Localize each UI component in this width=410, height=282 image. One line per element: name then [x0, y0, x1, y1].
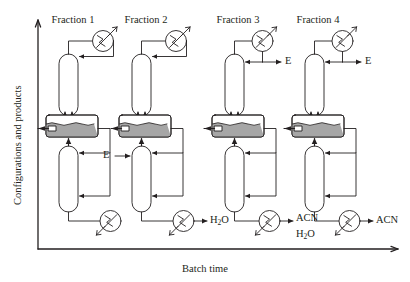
fraction-4-title: Fraction 4 — [287, 15, 349, 26]
axis-x — [38, 246, 398, 251]
fraction-1-vapour-line — [69, 41, 93, 54]
fraction-1-title: Fraction 1 — [42, 15, 104, 26]
fraction-4-flowsheet — [284, 27, 373, 235]
fraction-2-stripping-column — [132, 146, 151, 212]
fraction-2-rectifying-column — [132, 54, 151, 116]
fraction-3-bottom-product-label-2: H2O — [296, 229, 315, 240]
fraction-2-vapour-line — [142, 41, 166, 54]
figure-canvas: Fraction 1 Fraction 2 Fraction 3 Fractio… — [0, 0, 410, 282]
fraction-3-reboiler-return — [246, 153, 277, 196]
fraction-3-stripping-column — [225, 146, 244, 212]
fraction-3-bottom-product-label-1: ACN — [296, 213, 318, 224]
fraction-2-middle-vessel — [111, 115, 171, 137]
fraction-3-condenser — [252, 27, 277, 52]
fraction-1-reboiler-feed — [69, 212, 101, 221]
fraction-2-title: Fraction 2 — [115, 15, 177, 26]
h2o-o: O — [221, 214, 229, 225]
fraction-2-reboiler — [170, 211, 195, 236]
axis-y — [35, 20, 40, 249]
h2o-h: H — [210, 214, 218, 225]
y-axis-label: Configurations and products — [13, 65, 24, 225]
fraction-3-title: Fraction 3 — [207, 15, 269, 26]
h2o-h: H — [296, 228, 304, 239]
fraction-4-condenser — [332, 27, 357, 52]
fraction-3-flowsheet — [204, 27, 293, 235]
fraction-4-top-product-label: E — [365, 56, 371, 67]
fraction-3-reboiler — [256, 211, 281, 236]
fraction-4-stripping-column — [305, 146, 324, 212]
h2o-o: O — [307, 228, 315, 239]
fraction-3-middle-vessel — [204, 115, 264, 137]
fraction-3-rectifying-column — [225, 54, 244, 116]
fraction-4-middle-vessel — [284, 115, 344, 137]
fraction-1-reboiler — [97, 211, 122, 236]
fraction-1-rectifying-column — [59, 54, 78, 116]
fraction-4-reboiler-return — [326, 153, 357, 196]
fraction-2-reboiler-feed — [142, 212, 174, 221]
process-flow-diagram — [0, 0, 410, 282]
fraction-1-middle-vessel — [38, 115, 98, 137]
fraction-2-reboiler-return — [153, 153, 184, 196]
fraction-1-stripping-column — [59, 146, 78, 212]
x-axis-label: Batch time — [0, 264, 410, 275]
fraction-3-vapour-line — [235, 41, 253, 54]
fraction-1-flowsheet — [38, 27, 121, 235]
fraction-4-rectifying-column — [305, 54, 324, 116]
fraction-2-feed-label: E — [103, 150, 109, 161]
fraction-4-bottom-product-label: ACN — [376, 215, 398, 226]
fraction-4-vapour-line — [315, 41, 333, 54]
fraction-3-top-product-label: E — [285, 56, 291, 67]
fraction-4-reboiler — [336, 211, 361, 236]
fraction-2-flowsheet — [111, 27, 207, 235]
fraction-4-reboiler-feed — [315, 212, 340, 221]
fraction-2-bottom-product-label: H2O — [210, 215, 229, 226]
fraction-3-reboiler-feed — [235, 212, 260, 221]
